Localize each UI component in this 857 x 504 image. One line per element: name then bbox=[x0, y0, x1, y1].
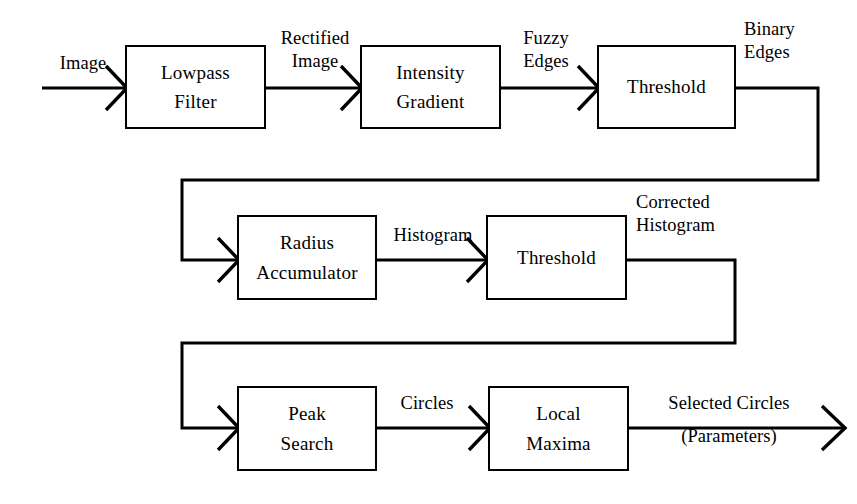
node-threshold-1-line1: Threshold bbox=[627, 72, 706, 101]
node-intensity-gradient-line2: Gradient bbox=[396, 87, 464, 116]
edge-label-binary-edges-line1: Binary bbox=[744, 18, 830, 41]
arrowhead-into-localmaxima bbox=[469, 406, 490, 450]
node-threshold-2-line1: Threshold bbox=[517, 243, 596, 272]
edge-label-circles: Circles bbox=[385, 392, 469, 415]
edge-label-selected-circles: Selected Circles (Parameters) bbox=[636, 392, 822, 448]
edge-label-fuzzy-edges: Fuzzy Edges bbox=[510, 27, 582, 73]
node-lowpass-filter[interactable]: Lowpass Filter bbox=[125, 45, 266, 129]
node-lowpass-filter-line1: Lowpass bbox=[161, 58, 230, 87]
node-radius-accumulator-line1: Radius bbox=[280, 228, 334, 257]
edge-label-rectified-image-line2: Image bbox=[269, 50, 361, 73]
edge-label-histogram: Histogram bbox=[382, 224, 484, 247]
node-local-maxima-line2: Maxima bbox=[526, 429, 591, 458]
edge-label-histogram-line1: Histogram bbox=[382, 224, 484, 247]
edge-label-rectified-image-line1: Rectified bbox=[269, 27, 361, 50]
node-local-maxima-line1: Local bbox=[536, 399, 580, 428]
edge-label-binary-edges: Binary Edges bbox=[744, 18, 830, 64]
arrowhead-into-radius bbox=[218, 238, 239, 282]
edge-label-selected-circles-line1: Selected Circles bbox=[636, 392, 822, 415]
node-threshold-1[interactable]: Threshold bbox=[597, 45, 736, 129]
edge-label-corrected-histogram-line1: Corrected bbox=[636, 191, 756, 214]
node-radius-accumulator-line2: Accumulator bbox=[256, 258, 357, 287]
node-threshold-2[interactable]: Threshold bbox=[486, 215, 627, 300]
node-intensity-gradient-line1: Intensity bbox=[396, 58, 464, 87]
flowchart-canvas: Lowpass Filter Intensity Gradient Thresh… bbox=[0, 0, 857, 504]
edge-label-binary-edges-line2: Edges bbox=[744, 41, 830, 64]
edge-label-corrected-histogram-line2: Histogram bbox=[636, 214, 756, 237]
edge-label-circles-line1: Circles bbox=[385, 392, 469, 415]
node-radius-accumulator[interactable]: Radius Accumulator bbox=[237, 215, 377, 300]
edge-label-image: Image bbox=[46, 52, 120, 75]
edge-label-image-line1: Image bbox=[46, 52, 120, 75]
node-peak-search-line1: Peak bbox=[288, 399, 326, 428]
node-local-maxima[interactable]: Local Maxima bbox=[488, 386, 629, 471]
node-peak-search-line2: Search bbox=[281, 429, 334, 458]
edge-label-corrected-histogram: Corrected Histogram bbox=[636, 191, 756, 237]
edge-label-fuzzy-edges-line2: Edges bbox=[510, 50, 582, 73]
arrowhead-into-peak bbox=[218, 406, 239, 450]
node-lowpass-filter-line2: Filter bbox=[174, 87, 216, 116]
edge-label-selected-circles-line2: (Parameters) bbox=[636, 425, 822, 448]
node-intensity-gradient[interactable]: Intensity Gradient bbox=[360, 45, 501, 129]
arrowhead-output bbox=[822, 406, 845, 450]
edge-label-fuzzy-edges-line1: Fuzzy bbox=[510, 27, 582, 50]
edge-label-rectified-image: Rectified Image bbox=[269, 27, 361, 73]
node-peak-search[interactable]: Peak Search bbox=[237, 386, 377, 471]
